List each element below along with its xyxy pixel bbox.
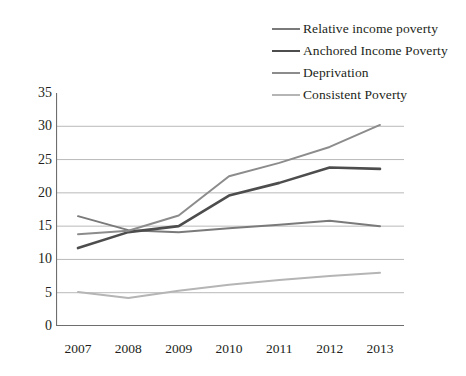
legend-label-relative-income-poverty: Relative income poverty	[303, 21, 438, 37]
y-axis-tick-label: 35	[38, 86, 52, 100]
legend-label-deprivation: Deprivation	[303, 65, 369, 81]
y-axis-tick-label: 15	[38, 219, 52, 233]
legend-item-relative-income-poverty[interactable]: Relative income poverty	[272, 18, 466, 40]
legend-swatch-deprivation	[272, 72, 300, 74]
x-axis-tick-label: 2011	[266, 342, 293, 356]
x-axis-tick-label: 2007	[65, 342, 92, 356]
y-axis-tick-label: 20	[38, 186, 52, 200]
y-axis-labels: 05101520253035	[18, 86, 52, 333]
x-axis-tick-label: 2009	[165, 342, 192, 356]
line-chart: Relative income poverty Anchored Income …	[0, 0, 466, 376]
legend-swatch-anchored-income-poverty	[272, 50, 300, 52]
x-axis-tick-label: 2008	[115, 342, 142, 356]
x-axis-labels: 2007200820092010201120122013	[56, 338, 404, 360]
y-axis-tick-label: 0	[45, 319, 52, 333]
legend-swatch-relative-income-poverty	[272, 28, 300, 30]
y-axis-tick-label: 25	[38, 153, 52, 167]
series-line-consistent-poverty	[78, 273, 380, 298]
plot-area	[56, 93, 404, 326]
legend-label-anchored-income-poverty: Anchored Income Poverty	[303, 43, 448, 59]
y-axis-tick-label: 30	[38, 119, 52, 133]
x-axis-tick-label: 2010	[216, 342, 243, 356]
legend-item-deprivation[interactable]: Deprivation	[272, 62, 466, 84]
x-axis-tick-label: 2012	[316, 342, 343, 356]
series-line-relative-income-poverty	[78, 216, 380, 232]
plot-svg	[56, 93, 404, 326]
y-axis-tick-label: 10	[38, 252, 52, 266]
x-axis-tick-label: 2013	[367, 342, 394, 356]
legend-item-anchored-income-poverty[interactable]: Anchored Income Poverty	[272, 40, 466, 62]
y-axis-tick-label: 5	[45, 286, 52, 300]
series-line-deprivation	[78, 125, 380, 234]
series-line-anchored-income-poverty	[78, 168, 380, 249]
